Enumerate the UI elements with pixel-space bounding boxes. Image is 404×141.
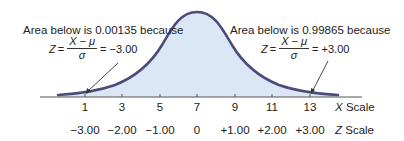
normal-distribution-figure: Area below is 0.00135 because Z = X − μ … (0, 0, 404, 141)
z-tick-label: +3.00 (295, 124, 324, 136)
fraction-numerator: X − μ (279, 36, 309, 49)
fraction: X − μ σ (67, 36, 97, 61)
formula-result: = −3.00 (100, 43, 137, 55)
x-scale-word: Scale (346, 101, 375, 113)
z-scale-label: Z Scale (335, 124, 374, 136)
x-tick-label: 7 (194, 101, 200, 113)
z-tick-label: −2.00 (107, 124, 136, 136)
z-tick-label: +2.00 (257, 124, 286, 136)
x-tick-label: 11 (266, 101, 278, 113)
arrow-right-annotation (311, 61, 328, 94)
formula-result: = +3.00 (312, 43, 349, 55)
x-tick-label: 9 (232, 101, 238, 113)
equals-sign: = (270, 43, 276, 55)
x-scale-label: X Scale (335, 101, 375, 113)
left-annotation-text: Area below is 0.00135 because (23, 24, 183, 36)
formula-lhs: Z (49, 43, 56, 55)
normal-curve-plot (0, 0, 404, 141)
z-tick-label: +1.00 (220, 124, 249, 136)
z-scale-var: Z (335, 124, 342, 136)
x-tick-label: 13 (304, 101, 317, 113)
fraction-numerator: X − μ (67, 36, 97, 49)
x-tick-label: 3 (119, 101, 125, 113)
x-tick-label: 1 (82, 101, 88, 113)
fraction-denominator: σ (79, 49, 86, 61)
z-tick-label: 0 (194, 124, 200, 136)
z-scale-word: Scale (345, 124, 374, 136)
fraction: X − μ σ (279, 36, 309, 61)
x-tick-label: 5 (157, 101, 163, 113)
z-tick-label: −3.00 (70, 124, 99, 136)
right-annotation-text: Area below is 0.99865 because (230, 24, 390, 36)
z-tick-label: −1.00 (145, 124, 174, 136)
x-scale-var: X (335, 101, 343, 113)
left-annotation-formula: Z = X − μ σ = −3.00 (49, 36, 137, 61)
equals-sign: = (58, 43, 64, 55)
fraction-denominator: σ (291, 49, 298, 61)
formula-lhs: Z (261, 43, 268, 55)
right-annotation-formula: Z = X − μ σ = +3.00 (261, 36, 349, 61)
